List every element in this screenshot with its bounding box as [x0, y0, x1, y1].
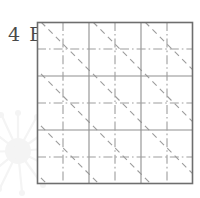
- hatch-grid-drawing: [0, 0, 200, 198]
- figure-page: 4 B: [0, 0, 200, 198]
- diagonal-line: [197, 22, 200, 184]
